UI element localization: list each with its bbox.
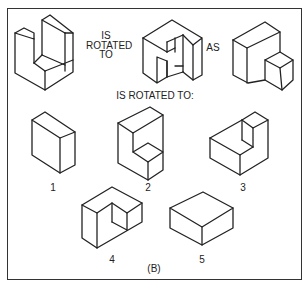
option-4-shape[interactable] — [82, 187, 142, 248]
option-3-label[interactable]: 3 — [237, 183, 249, 193]
shape-rotated — [143, 20, 202, 83]
option-3-shape[interactable] — [210, 112, 268, 175]
prompt-line-3: TO — [86, 50, 126, 60]
shape-as-reference — [233, 22, 293, 90]
question-text: IS ROTATED TO: — [110, 91, 200, 101]
option-5-label[interactable]: 5 — [196, 255, 208, 265]
option-2-shape[interactable] — [118, 107, 163, 180]
option-5-shape[interactable] — [170, 192, 233, 245]
is-rotated-to-text: IS ROTATED TO — [86, 31, 126, 60]
figure-caption: (B) — [142, 264, 166, 274]
shape-original — [15, 15, 73, 90]
option-1-label[interactable]: 1 — [47, 183, 59, 193]
option-1-shape[interactable] — [32, 112, 75, 173]
option-4-label[interactable]: 4 — [106, 255, 118, 265]
as-text: AS — [205, 43, 221, 53]
isometric-shapes — [0, 0, 305, 286]
option-2-label[interactable]: 2 — [142, 183, 154, 193]
